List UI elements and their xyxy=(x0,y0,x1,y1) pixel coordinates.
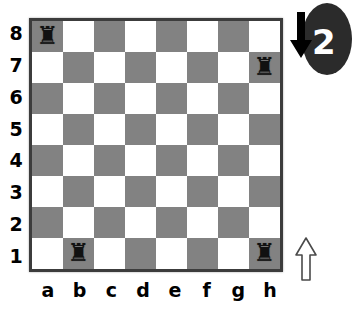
square-f7[interactable] xyxy=(187,52,218,83)
square-f1[interactable] xyxy=(187,238,218,269)
square-g1[interactable] xyxy=(218,238,249,269)
file-label-b: b xyxy=(64,276,96,304)
square-d1[interactable] xyxy=(125,238,156,269)
square-a3[interactable] xyxy=(32,176,63,207)
square-h1[interactable]: ♜ xyxy=(249,238,280,269)
rank-label-6: 6 xyxy=(4,82,28,114)
square-e7[interactable] xyxy=(156,52,187,83)
rank-label-column: 8 7 6 5 4 3 2 1 xyxy=(4,18,28,272)
square-a8[interactable]: ♜ xyxy=(32,21,63,52)
square-g7[interactable] xyxy=(218,52,249,83)
square-c7[interactable] xyxy=(94,52,125,83)
square-h3[interactable] xyxy=(249,176,280,207)
square-e5[interactable] xyxy=(156,114,187,145)
square-g4[interactable] xyxy=(218,145,249,176)
chessboard: ♜♜♜♜ xyxy=(29,18,283,272)
square-d6[interactable] xyxy=(125,83,156,114)
square-a7[interactable] xyxy=(32,52,63,83)
square-f4[interactable] xyxy=(187,145,218,176)
square-c3[interactable] xyxy=(94,176,125,207)
square-a2[interactable] xyxy=(32,207,63,238)
square-d7[interactable] xyxy=(125,52,156,83)
square-c4[interactable] xyxy=(94,145,125,176)
square-c8[interactable] xyxy=(94,21,125,52)
black-rook[interactable]: ♜ xyxy=(67,240,89,265)
square-b5[interactable] xyxy=(63,114,94,145)
square-g2[interactable] xyxy=(218,207,249,238)
rank-label-1: 1 xyxy=(4,240,28,272)
square-a4[interactable] xyxy=(32,145,63,176)
black-rook[interactable]: ♜ xyxy=(36,23,58,48)
file-label-g: g xyxy=(223,276,255,304)
square-d5[interactable] xyxy=(125,114,156,145)
square-h4[interactable] xyxy=(249,145,280,176)
file-label-row: a b c d e f g h xyxy=(32,276,286,304)
square-d3[interactable] xyxy=(125,176,156,207)
rank-label-8: 8 xyxy=(4,18,28,50)
file-label-c: c xyxy=(96,276,128,304)
file-label-h: h xyxy=(254,276,286,304)
square-a1[interactable] xyxy=(32,238,63,269)
rank-label-3: 3 xyxy=(4,177,28,209)
square-b2[interactable] xyxy=(63,207,94,238)
square-g6[interactable] xyxy=(218,83,249,114)
black-rook[interactable]: ♜ xyxy=(253,54,275,79)
file-label-d: d xyxy=(127,276,159,304)
square-f6[interactable] xyxy=(187,83,218,114)
square-e2[interactable] xyxy=(156,207,187,238)
square-c1[interactable] xyxy=(94,238,125,269)
square-e8[interactable] xyxy=(156,21,187,52)
square-h6[interactable] xyxy=(249,83,280,114)
square-f8[interactable] xyxy=(187,21,218,52)
rank-label-5: 5 xyxy=(4,113,28,145)
up-arrow-icon xyxy=(294,236,318,282)
square-h7[interactable]: ♜ xyxy=(249,52,280,83)
square-c6[interactable] xyxy=(94,83,125,114)
square-f5[interactable] xyxy=(187,114,218,145)
square-h5[interactable] xyxy=(249,114,280,145)
square-d4[interactable] xyxy=(125,145,156,176)
square-c5[interactable] xyxy=(94,114,125,145)
square-d8[interactable] xyxy=(125,21,156,52)
square-f3[interactable] xyxy=(187,176,218,207)
square-a5[interactable] xyxy=(32,114,63,145)
square-b4[interactable] xyxy=(63,145,94,176)
square-e1[interactable] xyxy=(156,238,187,269)
square-g3[interactable] xyxy=(218,176,249,207)
rank-label-4: 4 xyxy=(4,145,28,177)
square-a6[interactable] xyxy=(32,83,63,114)
square-b7[interactable] xyxy=(63,52,94,83)
square-c2[interactable] xyxy=(94,207,125,238)
square-b6[interactable] xyxy=(63,83,94,114)
square-h8[interactable] xyxy=(249,21,280,52)
square-b8[interactable] xyxy=(63,21,94,52)
square-d2[interactable] xyxy=(125,207,156,238)
square-e4[interactable] xyxy=(156,145,187,176)
file-label-e: e xyxy=(159,276,191,304)
black-rook[interactable]: ♜ xyxy=(253,240,275,265)
down-arrow-icon xyxy=(289,12,313,60)
square-e3[interactable] xyxy=(156,176,187,207)
square-h2[interactable] xyxy=(249,207,280,238)
file-label-f: f xyxy=(191,276,223,304)
square-e6[interactable] xyxy=(156,83,187,114)
file-label-a: a xyxy=(32,276,64,304)
square-g5[interactable] xyxy=(218,114,249,145)
rank-label-7: 7 xyxy=(4,50,28,82)
square-b1[interactable]: ♜ xyxy=(63,238,94,269)
square-g8[interactable] xyxy=(218,21,249,52)
chessboard-grid: ♜♜♜♜ xyxy=(32,21,280,269)
badge-number: 2 xyxy=(312,22,346,62)
rank-label-2: 2 xyxy=(4,209,28,241)
square-f2[interactable] xyxy=(187,207,218,238)
square-b3[interactable] xyxy=(63,176,94,207)
